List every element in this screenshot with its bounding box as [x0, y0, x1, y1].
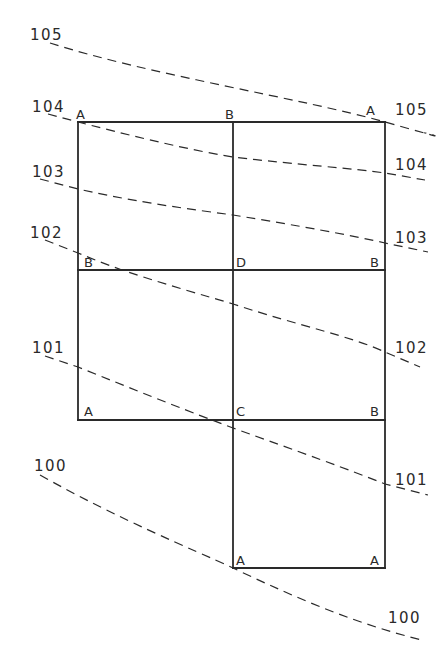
corner-label: A [76, 107, 85, 122]
corner-label: A [370, 553, 379, 568]
corner-label: C [236, 404, 246, 419]
corner-label: B [370, 404, 379, 419]
contour-label-left: 100 [34, 457, 67, 475]
corner-label: A [236, 553, 245, 568]
corner-label: A [84, 404, 93, 419]
corner-label: A [366, 103, 375, 118]
contour-label-right: 104 [395, 156, 428, 174]
corner-label: B [225, 107, 234, 122]
corner-label: B [84, 255, 93, 270]
contour-label-left: 104 [32, 98, 65, 116]
contour-label-right: 101 [395, 471, 428, 489]
contour-label-left: 105 [30, 26, 63, 44]
contour-label-left: 103 [32, 163, 65, 181]
contour-label-right: 100 [388, 609, 421, 627]
contour-label-right: 103 [395, 229, 428, 247]
grid [78, 122, 385, 568]
corner-label: B [370, 255, 379, 270]
contour-label-right: 105 [395, 101, 428, 119]
contour-label-left: 102 [30, 224, 63, 242]
grid-contour-diagram: A B A B D B A C B A A 105 105 104 104 10… [0, 0, 446, 650]
contour-line-104 [48, 114, 425, 180]
contour-line-100 [40, 475, 422, 640]
contour-label-left: 101 [32, 339, 65, 357]
contour-line-103 [40, 179, 428, 252]
contour-line-101 [45, 356, 428, 495]
corner-label: D [236, 255, 247, 270]
contour-label-right: 102 [395, 339, 428, 357]
corner-labels: A B A B D B A C B A A [76, 103, 379, 568]
contours [40, 43, 435, 640]
